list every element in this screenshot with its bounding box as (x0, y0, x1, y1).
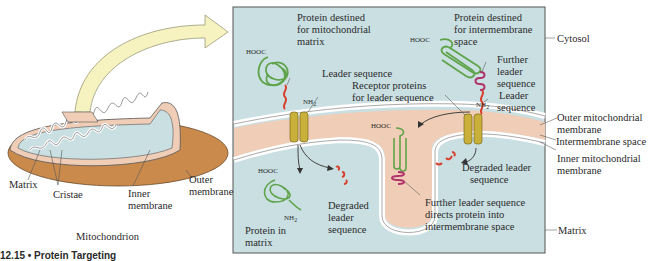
label-further-leader-3: sequence (497, 78, 535, 90)
label-degraded-left-3: sequence (328, 224, 366, 236)
label-nh2-left: NH2 (303, 98, 316, 108)
label-degraded-right-2: sequence (470, 174, 508, 186)
label-protein-matrix-2: for mitochondrial (297, 24, 371, 36)
label-hooc-matrix-protein: HOOC (258, 167, 278, 175)
label-inner-mito-membrane-1: Inner mitochondrial (557, 153, 641, 165)
label-further-leader-1: Further (497, 54, 528, 66)
label-protein-in-matrix-2: matrix (245, 237, 272, 249)
label-further-directs-2: directs protein into (425, 209, 504, 221)
mitochondrion-overview (8, 92, 228, 186)
label-protein-matrix-1: Protein destined (297, 12, 365, 24)
label-protein-in-matrix-1: Protein in (245, 225, 286, 237)
label-receptor-proteins-2: for leader sequence (352, 92, 434, 104)
label-nh2-matrix-protein: NH2 (284, 214, 297, 224)
label-outer-membrane-2: membrane (189, 186, 233, 198)
label-leader-right-1: Leader (499, 90, 528, 102)
detail-panel (233, 7, 557, 253)
label-inner-membrane-1: Inner (128, 188, 150, 200)
label-matrix-side: Matrix (558, 225, 587, 237)
label-further-directs-3: intermembrane space (425, 221, 515, 233)
label-degraded-left-2: leader (328, 212, 354, 224)
label-cytosol: Cytosol (557, 33, 590, 45)
label-protein-ims-3: space (454, 36, 477, 48)
label-matrix: Matrix (9, 179, 38, 191)
label-degraded-right-1: Degraded leader (462, 162, 531, 174)
label-further-directs-1: Further leader sequence (425, 197, 525, 209)
label-protein-matrix-3: matrix (297, 36, 324, 48)
label-hooc-fold: HOOC (371, 122, 391, 130)
label-intermembrane-space: Intermembrane space (556, 136, 646, 148)
label-nh2-right: NH2 (476, 101, 489, 111)
zoom-arrow (75, 15, 228, 112)
label-further-leader-2: leader (497, 66, 523, 78)
label-inner-mito-membrane-2: membrane (557, 165, 601, 177)
label-protein-ims-1: Protein destined (454, 12, 522, 24)
label-outer-membrane-1: Outer (189, 174, 213, 186)
label-hooc-matrix: HOOC (246, 48, 266, 56)
overview-title: Mitochondrion (76, 231, 139, 243)
label-cristae: Cristae (53, 189, 83, 201)
label-receptor-proteins-1: Receptor proteins (352, 80, 426, 92)
label-degraded-left-1: Degraded (328, 200, 369, 212)
label-leader-sequence: Leader sequence (322, 68, 392, 80)
label-outer-mito-membrane-2: membrane (557, 124, 601, 136)
label-inner-membrane-2: membrane (128, 200, 172, 212)
label-leader-right-2: sequence (497, 102, 535, 114)
label-outer-mito-membrane-1: Outer mitochondrial (557, 112, 642, 124)
label-protein-ims-2: for intermembrane (454, 24, 532, 36)
figure-caption: 12.15 • Protein Targeting (0, 250, 116, 261)
label-hooc-ims: HOOC (410, 36, 430, 44)
